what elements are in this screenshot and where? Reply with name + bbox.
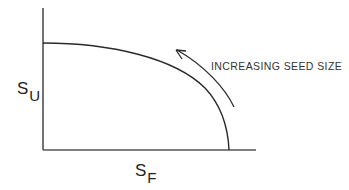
y-axis-label-subscript: U bbox=[29, 87, 40, 104]
increasing-arrow-arc bbox=[177, 50, 234, 107]
y-axis-label: SU bbox=[17, 80, 39, 97]
tradeoff-curve bbox=[43, 43, 229, 150]
x-axis-label-main: S bbox=[135, 161, 146, 180]
y-axis-label-main: S bbox=[17, 79, 28, 98]
annotation-increasing-seed-size: INCREASING SEED SIZE bbox=[211, 61, 342, 72]
diagram-canvas bbox=[0, 0, 349, 190]
x-axis-label: SF bbox=[135, 162, 156, 179]
x-axis-label-subscript: F bbox=[147, 169, 156, 186]
